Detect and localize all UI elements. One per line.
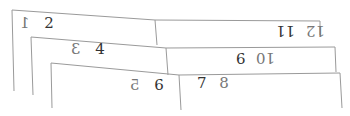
sheet-3-right-labels: 7 8: [197, 76, 229, 91]
label-8: 8: [219, 74, 229, 92]
label-12: 12: [306, 23, 325, 38]
label-1: 1: [20, 16, 30, 31]
label-5: 5: [130, 78, 140, 93]
label-10: 10: [256, 50, 275, 65]
sheet-1-right-labels: 11 12: [276, 23, 325, 38]
sheet-3-divider: [179, 75, 181, 110]
sheet-2-divider: [166, 48, 168, 75]
sheet-1-left-labels: 1 2: [20, 16, 54, 31]
label-11: 11: [276, 23, 295, 38]
sheet-2-right-labels: 9 10: [236, 50, 275, 65]
label-2: 2: [44, 14, 54, 32]
sheet-2-left-labels: 3 4: [71, 42, 105, 57]
label-7: 7: [197, 74, 207, 92]
label-4: 4: [95, 40, 105, 58]
sheet-3-left-labels: 5 6: [130, 78, 164, 93]
label-6: 6: [154, 76, 164, 94]
sheet-1-divider: [155, 20, 157, 45]
label-9: 9: [236, 50, 246, 65]
label-3: 3: [71, 42, 81, 57]
